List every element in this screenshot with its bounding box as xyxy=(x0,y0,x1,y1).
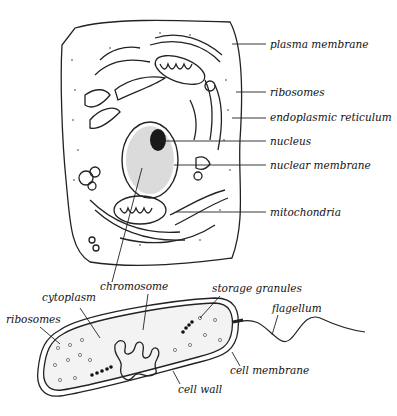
label-nucleus: nucleus xyxy=(270,136,311,147)
label-endoplasmic-reticulum: endoplasmic reticulum xyxy=(270,112,392,123)
label-storage-granules: storage granules xyxy=(212,283,302,294)
label-ribosomes: ribosomes xyxy=(270,87,325,98)
label-cytoplasm: cytoplasm xyxy=(42,292,96,303)
label-cell-membrane: cell membrane xyxy=(230,365,309,376)
label-chromosome: chromosome xyxy=(100,281,168,292)
label-nuclear-membrane: nuclear membrane xyxy=(270,160,371,171)
label-mitochondria: mitochondria xyxy=(270,207,341,218)
cell-diagram: plasma membrane ribosomes endoplasmic re… xyxy=(0,0,397,416)
label-plasma-membrane: plasma membrane xyxy=(270,39,368,50)
label-flagellum: flagellum xyxy=(272,303,322,314)
eukaryotic-cell xyxy=(61,20,241,265)
label-cell-wall: cell wall xyxy=(178,384,222,395)
nucleolus xyxy=(150,129,166,151)
label-prokaryotic-ribosomes: ribosomes xyxy=(6,314,61,325)
